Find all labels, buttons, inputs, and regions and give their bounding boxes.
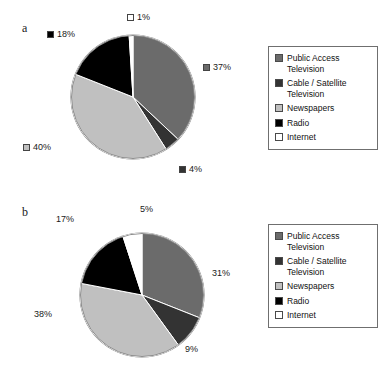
legend-item: Cable / Satellite Television (275, 256, 370, 277)
legend-label: Internet (287, 132, 316, 143)
slice-value-cable-a: 4% (189, 165, 202, 174)
slice-swatch-public-access-a (203, 64, 210, 71)
slice-label-newspapers-a: 40% (23, 143, 51, 152)
slice-swatch-cable-a (179, 166, 186, 173)
slice-value-public-access-a: 37% (213, 63, 231, 72)
legend-label: Internet (287, 310, 316, 321)
panel-letter-b: b (22, 206, 28, 218)
slice-value-newspapers-b: 38% (34, 310, 52, 319)
legend-swatch (275, 79, 283, 87)
legend-item: Public Access Television (275, 53, 370, 74)
legend-label: Radio (287, 296, 309, 307)
legend-swatch (275, 119, 283, 127)
legend-swatch (275, 257, 283, 265)
legend-b: Public Access TelevisionCable / Satellit… (268, 224, 378, 328)
legend-item: Cable / Satellite Television (275, 78, 370, 99)
slice-label-internet-b: 5% (140, 205, 153, 214)
slice-value-internet-b: 5% (140, 205, 153, 214)
slice-label-radio-a: 18% (47, 30, 75, 39)
legend-label: Public Access Television (287, 231, 370, 252)
slice-swatch-internet-a (127, 14, 134, 21)
legend-swatch (275, 54, 283, 62)
pie-chart-b (80, 233, 204, 357)
legend-swatch (275, 311, 283, 319)
legend-swatch (275, 297, 283, 305)
slice-value-public-access-b: 31% (212, 269, 230, 278)
legend-swatch (275, 282, 283, 290)
slice-value-radio-a: 18% (57, 30, 75, 39)
pie-chart-a (71, 35, 195, 159)
slice-value-newspapers-a: 40% (33, 143, 51, 152)
legend-label: Radio (287, 118, 309, 129)
legend-label: Cable / Satellite Television (287, 78, 370, 99)
slice-value-internet-a: 1% (137, 13, 150, 22)
slice-label-public-access-b: 31% (212, 269, 230, 278)
legend-label: Cable / Satellite Television (287, 256, 370, 277)
legend-item: Internet (275, 310, 370, 321)
panel-letter-a: a (22, 22, 27, 34)
legend-swatch (275, 104, 283, 112)
slice-value-radio-b: 17% (56, 215, 74, 224)
slice-label-public-access-a: 37% (203, 63, 231, 72)
slice-value-cable-b: 9% (185, 345, 198, 354)
legend-swatch (275, 232, 283, 240)
slice-label-cable-b: 9% (185, 345, 198, 354)
legend-item: Public Access Television (275, 231, 370, 252)
legend-item: Radio (275, 296, 370, 307)
slice-label-radio-b: 17% (56, 215, 74, 224)
legend-swatch (275, 133, 283, 141)
slice-label-newspapers-b: 38% (34, 310, 52, 319)
legend-item: Internet (275, 132, 370, 143)
legend-a: Public Access TelevisionCable / Satellit… (268, 46, 378, 150)
legend-label: Newspapers (287, 103, 334, 114)
slice-label-internet-a: 1% (127, 13, 150, 22)
slice-label-cable-a: 4% (179, 165, 202, 174)
panel-b: b 31% 9% 38% 17% 5% Public Access Televi… (0, 191, 381, 382)
legend-item: Radio (275, 118, 370, 129)
legend-label: Public Access Television (287, 53, 370, 74)
panel-a: a 37% 4% 40% 18% 1% Public Access Televi… (0, 0, 381, 191)
legend-item: Newspapers (275, 281, 370, 292)
legend-label: Newspapers (287, 281, 334, 292)
slice-swatch-newspapers-a (23, 144, 30, 151)
pie-b-graphic (80, 233, 204, 357)
pie-a-graphic (71, 35, 195, 159)
slice-swatch-radio-a (47, 31, 54, 38)
legend-item: Newspapers (275, 103, 370, 114)
